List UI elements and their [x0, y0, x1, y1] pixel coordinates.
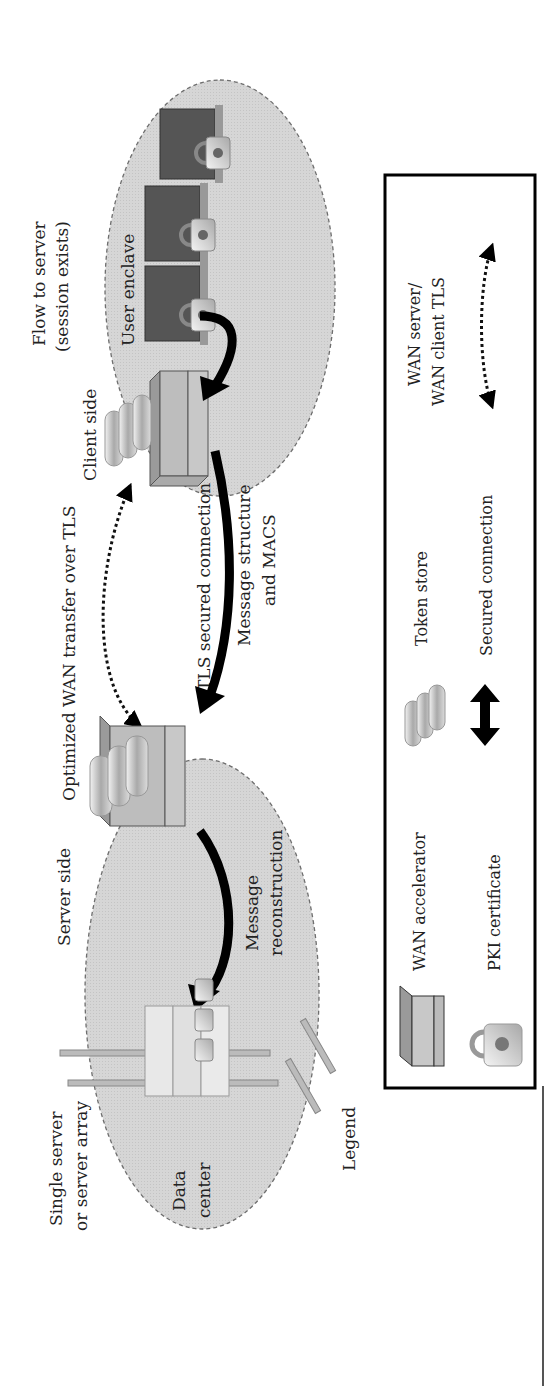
workstation-icon: [160, 105, 230, 183]
single-server-label: Single server or server array: [46, 1101, 91, 1231]
svg-text:Server side: Server side: [54, 848, 74, 946]
client-wan-accelerator-icon: [150, 371, 208, 486]
pki-certificate-icon: [195, 1009, 213, 1031]
svg-text:Optimized WAN transfer over TL: Optimized WAN transfer over TLS: [59, 506, 79, 801]
svg-text:Single server: Single server: [46, 1111, 66, 1226]
svg-text:WAN client TLS: WAN client TLS: [429, 277, 448, 406]
wan-accelerator-icon: [400, 986, 444, 1066]
svg-text:WAN accelerator: WAN accelerator: [410, 832, 429, 971]
optimized-wan-label: Optimized WAN transfer over TLS: [59, 506, 79, 801]
svg-text:Legend: Legend: [339, 1107, 359, 1171]
svg-text:and MACS: and MACS: [259, 514, 279, 606]
diagram-canvas: Flow to server (session exists) User enc…: [0, 0, 545, 1386]
legend-box: WAN accelerator PKI certificate Token st…: [385, 175, 535, 1088]
svg-text:Client side: Client side: [80, 389, 100, 481]
wan-tls-dotted-arrow: [103, 486, 140, 726]
user-enclave-label: User enclave: [118, 234, 138, 346]
svg-text:center: center: [194, 1162, 214, 1218]
svg-text:or server array: or server array: [71, 1101, 91, 1231]
server-side-label: Server side: [54, 848, 74, 946]
message-structure-label: Message structure and MACS: [234, 484, 279, 646]
svg-text:WAN server/: WAN server/: [405, 282, 424, 386]
svg-text:(session exists): (session exists): [52, 221, 72, 352]
client-token-store-icon: [105, 395, 151, 466]
svg-text:Secured connection: Secured connection: [477, 495, 496, 656]
svg-text:Token store: Token store: [412, 551, 431, 646]
svg-text:Message structure: Message structure: [234, 484, 254, 646]
data-center-label: Data: [169, 1170, 189, 1211]
workstation-icon: [145, 183, 215, 265]
pki-certificate-icon: [195, 979, 213, 1001]
svg-text:TLS secured connection: TLS secured connection: [194, 483, 214, 691]
pki-certificate-icon: [195, 1039, 213, 1061]
svg-text:Message: Message: [242, 875, 262, 951]
client-side-label: Client side: [80, 389, 100, 481]
svg-text:PKI certificate: PKI certificate: [485, 854, 504, 971]
legend-title: Legend: [339, 1107, 359, 1171]
tls-secured-label: TLS secured connection: [194, 483, 214, 691]
svg-text:reconstruction: reconstruction: [266, 829, 286, 956]
workstation-icon: [145, 263, 215, 345]
flow-to-server-label: Flow to server (session exists): [29, 221, 72, 352]
svg-text:Flow to server: Flow to server: [29, 221, 49, 346]
